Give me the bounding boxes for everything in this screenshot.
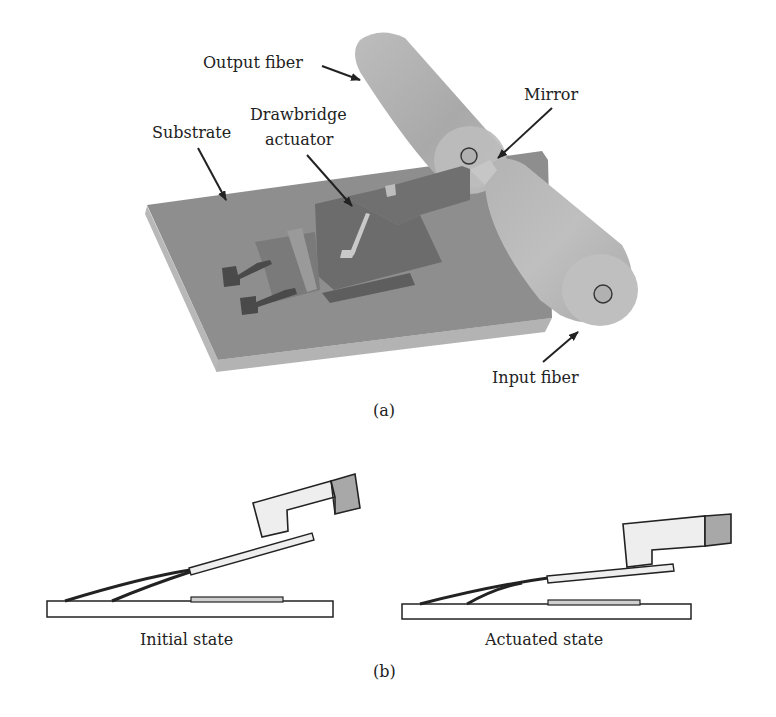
label-output-fiber: Output fiber — [203, 53, 303, 72]
label-mirror: Mirror — [524, 85, 578, 104]
bottom-electrode — [191, 597, 283, 602]
hinge-arm-long — [65, 570, 190, 601]
output-fiber-core — [461, 148, 477, 164]
label-actuated-state: Actuated state — [484, 630, 603, 649]
actuated-state-diagram: Actuated state — [402, 514, 731, 649]
initial-state-diagram: Initial state — [47, 474, 360, 649]
substrate — [402, 604, 691, 619]
arrow-substrate — [198, 148, 226, 200]
input-fiber-core — [594, 285, 612, 303]
label-drawbridge-line1: Drawbridge — [250, 105, 347, 124]
bottom-electrode — [548, 600, 640, 605]
panel-b-side-views: Initial state Actuated state (b) — [47, 474, 731, 681]
mems-optical-switch-figure: Output fiber Mirror Drawbridge actuator … — [0, 0, 776, 717]
arrow-mirror — [498, 108, 552, 158]
mirror-block — [253, 481, 335, 537]
arrow-input-fiber — [543, 332, 578, 362]
mirror-tip — [705, 514, 731, 546]
caption-b: (b) — [373, 662, 396, 681]
label-drawbridge-line2: actuator — [265, 130, 334, 149]
mirror-tip — [331, 474, 360, 514]
caption-a: (a) — [373, 401, 395, 420]
hinge-arm-long — [420, 578, 548, 604]
actuator-plate — [547, 564, 674, 583]
label-initial-state: Initial state — [140, 630, 233, 649]
substrate — [47, 601, 333, 617]
actuator-plate — [189, 533, 314, 575]
panel-a-3d-view: Output fiber Mirror Drawbridge actuator … — [145, 32, 638, 420]
label-substrate: Substrate — [152, 123, 231, 142]
mirror-block — [623, 516, 705, 567]
arrow-output-fiber — [322, 66, 360, 80]
label-input-fiber: Input fiber — [492, 368, 579, 387]
